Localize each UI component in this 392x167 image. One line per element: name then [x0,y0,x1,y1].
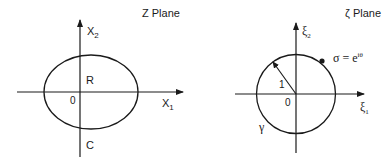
curve-label-c: C [86,139,94,151]
x1-axis-label: X1 [162,97,174,112]
region-label-r: R [86,74,94,86]
x2-axis-label: X2 [87,25,99,40]
origin-label: 0 [285,97,291,108]
point-sigma [319,58,324,63]
conformal-map-diagram: Z Plane X2 X1 0 R C ζ Plane ξ2 ξ1 0 1 γ … [0,0,392,167]
origin-label: 0 [70,95,76,106]
point-sigma-label: σ = eiθ [333,51,364,65]
zeta-plane-title: ζ Plane [345,7,381,19]
xi2-axis-label: ξ2 [302,24,311,40]
zeta-plane-panel: ζ Plane ξ2 ξ1 0 1 γ σ = eiθ [235,7,381,153]
z-plane-title: Z Plane [142,7,180,19]
radius-label: 1 [279,79,285,90]
curve-label-gamma: γ [258,120,265,134]
z-plane-panel: Z Plane X2 X1 0 R C [17,7,183,157]
xi1-axis-label: ξ1 [360,100,369,116]
